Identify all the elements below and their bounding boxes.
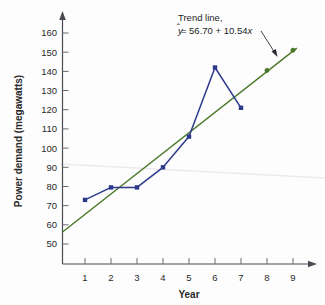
x-axis-ticks: 1 2 3 4 5 6 7 8 9 <box>82 258 295 283</box>
chart-figure: 160 150 140 130 120 110 100 90 80 70 60 … <box>0 0 325 305</box>
power-demand-line <box>85 68 241 200</box>
power-demand-line-chart: 160 150 140 130 120 110 100 90 80 70 60 … <box>0 0 325 305</box>
x-tick-label-4: 4 <box>160 272 165 283</box>
y-tick-label-100: 100 <box>41 143 57 154</box>
y-tick-label-70: 70 <box>46 200 57 211</box>
y-axis-ticks: 160 150 140 130 120 110 100 90 80 70 60 … <box>41 27 68 249</box>
data-point-year-7 <box>239 106 243 110</box>
data-point-year-4 <box>161 165 165 169</box>
y-axis-arrowhead <box>59 11 66 20</box>
y-tick-label-140: 140 <box>41 66 57 77</box>
y-tick-label-60: 60 <box>46 219 57 230</box>
x-tick-label-7: 7 <box>238 272 243 283</box>
x-axis-title: Year <box>178 289 199 300</box>
x-tick-label-9: 9 <box>290 272 295 283</box>
trend-point-year-8 <box>265 68 269 72</box>
y-tick-label-110: 110 <box>42 123 57 134</box>
x-tick-label-3: 3 <box>134 272 139 283</box>
y-axis-title: Power demand (megawatts) <box>13 75 24 207</box>
y-tick-label-160: 160 <box>41 27 57 38</box>
data-point-year-1 <box>83 198 87 202</box>
y-tick-label-150: 150 <box>41 47 57 58</box>
y-tick-label-130: 130 <box>41 85 57 96</box>
annotation-equation-variable: x <box>246 25 253 36</box>
annotation-line-2: ŷ = 56.70 + 10.54x <box>176 23 253 36</box>
x-tick-label-6: 6 <box>212 272 217 283</box>
y-tick-label-120: 120 <box>41 104 57 115</box>
x-tick-label-5: 5 <box>186 272 191 283</box>
trend-line-annotation: Trend line, ŷ = 56.70 + 10.54x <box>176 12 277 57</box>
x-axis-arrowhead <box>308 261 317 268</box>
y-tick-label-50: 50 <box>46 238 57 249</box>
data-point-year-5 <box>187 134 191 138</box>
trend-line-series <box>63 48 297 232</box>
power-demand-series <box>83 65 243 202</box>
x-tick-label-2: 2 <box>108 272 113 283</box>
trend-point-year-9 <box>291 48 295 52</box>
annotation-equation-body: = 56.70 + 10.54 <box>178 25 247 36</box>
annotation-arrowhead <box>272 49 278 57</box>
annotation-line-1: Trend line, <box>178 12 223 23</box>
annotation-leader-line <box>261 31 275 53</box>
scan-artifact-line <box>60 164 325 178</box>
data-point-year-3 <box>135 185 139 189</box>
data-point-year-2 <box>109 185 113 189</box>
x-tick-label-1: 1 <box>82 272 87 283</box>
trend-line <box>63 48 297 232</box>
y-tick-label-90: 90 <box>46 162 57 173</box>
x-tick-label-8: 8 <box>264 272 269 283</box>
y-tick-label-80: 80 <box>46 181 57 192</box>
axis-group <box>59 11 317 267</box>
data-point-year-6 <box>213 65 217 69</box>
